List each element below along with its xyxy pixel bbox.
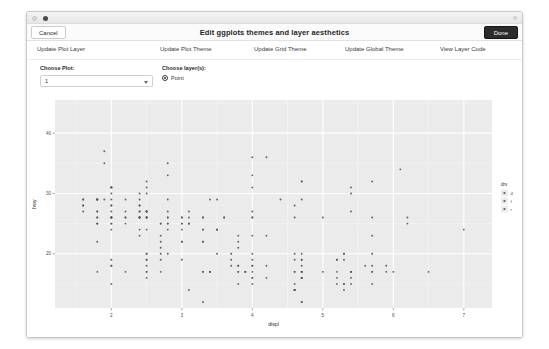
data-point [216,229,218,231]
legend-title: drv [501,182,508,187]
data-point [343,283,345,285]
panel-background [55,100,492,308]
data-point [202,229,204,231]
data-point [146,217,148,219]
data-point [251,186,253,188]
data-point [223,217,225,219]
data-point [188,223,190,225]
data-point [350,277,352,279]
data-point [266,156,268,158]
data-point [202,271,204,273]
plot-container: 234567203040displhwy drv4fr [27,96,523,338]
data-point [237,247,239,249]
chevron-down-icon [144,81,148,84]
data-point [251,211,253,213]
y-axis-tick-label: 30 [46,191,52,196]
data-point [343,259,345,261]
data-point [167,253,169,255]
data-point [160,247,162,249]
x-axis-title: displ [268,321,279,327]
active-dot-icon[interactable] [43,16,48,21]
data-point [181,229,183,231]
legend-key-marker [503,192,505,194]
data-point [96,271,98,273]
data-point [146,211,148,213]
legend-key-marker [503,208,505,210]
data-point [160,235,162,237]
tab-update-global-theme[interactable]: Update Global Theme [345,46,404,52]
data-point [110,259,112,261]
x-axis-tick-label: 5 [322,313,325,318]
data-point [301,277,303,279]
data-point [139,199,141,201]
screenshot-root: Cancel Edit ggplots themes and layer aes… [0,0,549,349]
data-point [237,265,239,267]
data-point [266,277,268,279]
data-point [110,265,112,267]
choose-plot-select[interactable]: 1 [40,75,153,87]
data-point [167,162,169,164]
y-axis-tick-label: 40 [46,131,52,136]
x-axis-tick-label: 6 [392,313,395,318]
layer-option-point[interactable]: Point [162,75,184,81]
data-point [371,283,373,285]
choose-layers-label: Choose layer(s): [162,65,206,71]
minimize-dot-icon[interactable] [32,16,37,21]
tab-update-grid-theme[interactable]: Update Grid Theme [254,46,307,52]
data-point [125,199,127,201]
data-point [399,168,401,170]
data-point [237,241,239,243]
data-point [139,193,141,195]
data-point [428,271,430,273]
data-point [294,259,296,261]
data-point [110,199,112,201]
data-point [301,180,303,182]
tab-update-plot-layer[interactable]: Update Plot Layer [37,46,85,52]
data-point [96,223,98,225]
data-point [146,271,148,273]
data-point [301,253,303,255]
controls-row: Choose Plot: 1 Choose layer(s): Point [27,60,522,96]
x-axis-tick-label: 7 [463,313,466,318]
x-axis-tick-label: 3 [181,313,184,318]
data-point [110,229,112,231]
data-point [237,283,239,285]
data-point [350,283,352,285]
data-point [216,199,218,201]
data-point [294,205,296,207]
data-point [336,271,338,273]
data-point [125,271,127,273]
data-point [237,271,239,273]
data-point [96,211,98,213]
data-point [294,217,296,219]
tab-view-layer-code[interactable]: View Layer Code [440,46,486,52]
x-axis-tick-label: 2 [110,313,113,318]
data-point [371,217,373,219]
data-point [167,174,169,176]
data-point [146,180,148,182]
data-point [103,199,105,201]
data-point [350,193,352,195]
data-point [294,253,296,255]
page-title: Edit ggplots themes and layer aesthetics [27,28,522,37]
data-point [294,271,296,273]
data-point [167,217,169,219]
data-point [385,271,387,273]
plot-panel [55,100,492,308]
data-point [160,241,162,243]
tab-update-plot-theme[interactable]: Update Plot Theme [160,46,212,52]
resize-dot-icon[interactable] [513,16,517,20]
data-point [167,199,169,201]
done-button[interactable]: Done [484,26,518,39]
data-point [110,193,112,195]
data-point [364,265,366,267]
data-point [146,193,148,195]
data-point [160,253,162,255]
legend-key-marker [503,200,505,202]
data-point [167,223,169,225]
data-point [251,283,253,285]
data-point [96,241,98,243]
choose-plot-value: 1 [41,78,48,84]
data-point [160,259,162,261]
data-point [110,186,112,188]
